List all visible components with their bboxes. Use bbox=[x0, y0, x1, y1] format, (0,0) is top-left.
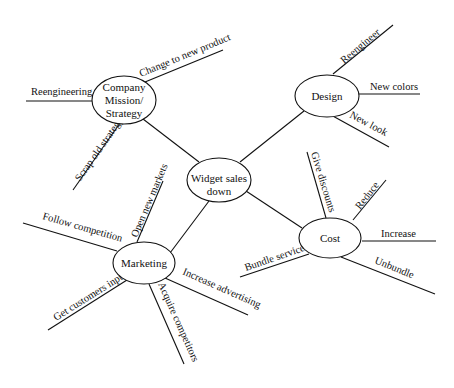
node-cost: Cost bbox=[299, 218, 361, 258]
svg-text:Company: Company bbox=[103, 81, 146, 93]
svg-text:Widget sales: Widget sales bbox=[191, 172, 247, 184]
svg-text:Strategy: Strategy bbox=[106, 107, 143, 119]
node-widget-sales-down: Widget sales down bbox=[187, 158, 251, 202]
branch-follow-competition: Follow competition bbox=[23, 210, 125, 251]
svg-text:Give discounts: Give discounts bbox=[309, 150, 338, 213]
svg-text:Scrap old strategy: Scrap old strategy bbox=[73, 114, 126, 183]
svg-text:down: down bbox=[207, 185, 232, 197]
svg-text:New colors: New colors bbox=[370, 81, 418, 92]
branch-increase-advertising: Increase advertising bbox=[165, 266, 263, 315]
svg-text:Reduce: Reduce bbox=[353, 179, 381, 211]
branch-scrap-old-strategy: Scrap old strategy bbox=[73, 114, 126, 190]
svg-text:Change to new product: Change to new product bbox=[138, 31, 233, 79]
svg-text:Open new markets: Open new markets bbox=[129, 162, 170, 239]
branch-get-customers-input: Get customers input bbox=[48, 269, 129, 330]
svg-text:Design: Design bbox=[311, 90, 343, 102]
branch-reengineering: Reengineering bbox=[26, 86, 93, 101]
branch-open-new-markets: Open new markets bbox=[129, 162, 170, 242]
branch-give-discounts: Give discounts bbox=[307, 150, 338, 218]
svg-text:Mission/: Mission/ bbox=[105, 94, 144, 106]
edge-mission-widget bbox=[143, 119, 199, 162]
edge-widget-cost bbox=[246, 191, 302, 228]
branch-unbundle: Unbundle bbox=[341, 255, 435, 294]
svg-text:Reengineering: Reengineering bbox=[31, 86, 93, 97]
branch-change-to-new-product: Change to new product bbox=[138, 31, 233, 82]
svg-text:Marketing: Marketing bbox=[121, 257, 167, 269]
branch-reduce: Reduce bbox=[353, 179, 386, 220]
branch-bundle-service: Bundle service bbox=[240, 242, 309, 277]
node-company-mission-strategy: Company Mission/ Strategy bbox=[92, 76, 156, 124]
node-design: Design bbox=[295, 75, 359, 117]
node-marketing: Marketing bbox=[113, 242, 175, 284]
edge-widget-marketing bbox=[170, 201, 209, 253]
svg-text:Bundle service: Bundle service bbox=[243, 242, 306, 273]
svg-text:New look: New look bbox=[348, 109, 390, 138]
svg-text:Cost: Cost bbox=[320, 232, 340, 244]
svg-text:Get customers input: Get customers input bbox=[51, 269, 129, 323]
svg-text:Increase: Increase bbox=[381, 228, 416, 239]
branch-increase: Increase bbox=[362, 228, 436, 241]
branch-acquire-competitors: Acquire competitors bbox=[149, 280, 201, 364]
svg-text:Unbundle: Unbundle bbox=[373, 255, 416, 281]
branch-new-colors: New colors bbox=[358, 81, 420, 94]
edge-widget-design bbox=[240, 111, 304, 162]
svg-text:Reengineer: Reengineer bbox=[338, 26, 382, 65]
mind-map-diagram: Reengineering Change to new product Scra… bbox=[0, 0, 454, 388]
branch-reengineer: Reengineer bbox=[333, 25, 393, 74]
svg-text:Follow competition: Follow competition bbox=[41, 210, 124, 244]
